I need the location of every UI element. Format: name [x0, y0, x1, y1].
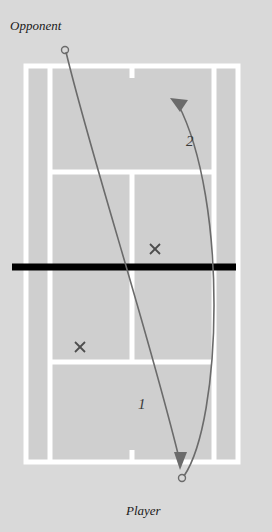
tennis-tactics-diagram: Opponent Player 1 2 — [0, 0, 272, 532]
player-label: Player — [126, 503, 161, 519]
court-graphic — [0, 0, 272, 532]
opponent-label: Opponent — [10, 18, 61, 34]
player-position-marker — [179, 475, 186, 482]
shot-one-label: 1 — [138, 396, 146, 413]
opponent-position-marker — [62, 47, 69, 54]
shot-two-label: 2 — [186, 133, 194, 150]
